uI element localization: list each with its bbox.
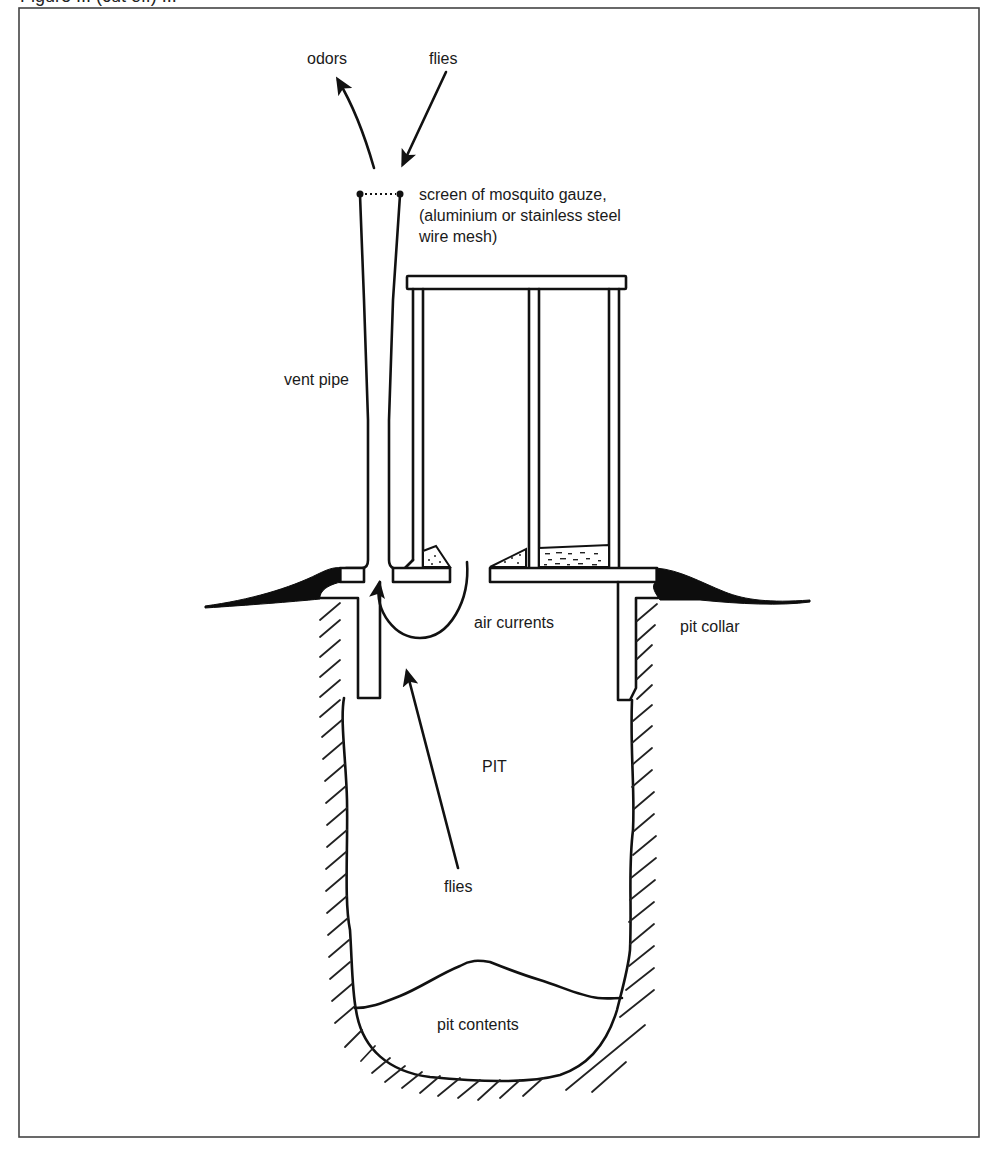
odors-arrow bbox=[338, 80, 374, 168]
screen-label-line2: (aluminium or stainless steel bbox=[419, 207, 621, 224]
flies-top-label: flies bbox=[429, 50, 457, 67]
vent-pipe-label: vent pipe bbox=[284, 371, 349, 388]
pit-contents-label: pit contents bbox=[437, 1016, 519, 1033]
floor-fill bbox=[423, 545, 609, 567]
pit-collar-label: pit collar bbox=[680, 618, 740, 635]
flies-up-arrow bbox=[407, 672, 458, 868]
flies-in-arrow bbox=[403, 72, 446, 164]
flies-bottom-label: flies bbox=[444, 878, 472, 895]
screen-label-line3: wire mesh) bbox=[418, 228, 497, 245]
pit-contents-surface bbox=[355, 961, 622, 1008]
vent-pipe bbox=[346, 195, 400, 568]
soil-hatching-right bbox=[566, 604, 657, 1092]
odors-label: odors bbox=[307, 50, 347, 67]
air-currents-label: air currents bbox=[474, 614, 554, 631]
fly-screen bbox=[357, 191, 404, 198]
screen-label-line1: screen of mosquito gauze, bbox=[419, 186, 607, 203]
cover-slab bbox=[340, 568, 657, 582]
vip-latrine-diagram: odors flies screen of mosquito gauze, (a… bbox=[0, 0, 992, 1149]
superstructure bbox=[405, 276, 626, 568]
pit-label: PIT bbox=[482, 758, 507, 775]
